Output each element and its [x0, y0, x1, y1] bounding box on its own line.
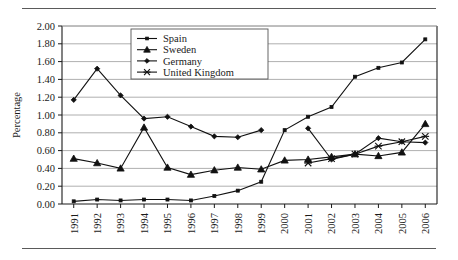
line-chart: 0.000.200.400.600.801.001.201.401.601.80…: [0, 0, 458, 260]
marker-square: [307, 115, 310, 118]
marker-square: [72, 200, 75, 203]
series-line: [308, 136, 425, 163]
marker-square: [260, 180, 263, 183]
marker-square: [119, 199, 122, 202]
figure: 0.000.200.400.600.801.001.201.401.601.80…: [0, 0, 458, 260]
marker-square: [236, 189, 239, 192]
marker-diamond: [423, 140, 428, 145]
y-tick-label: 0.60: [37, 145, 55, 156]
marker-square: [146, 37, 149, 40]
marker-star: [375, 143, 383, 149]
y-tick-label: 1.40: [37, 74, 55, 85]
x-tick-label: 1996: [186, 213, 197, 234]
marker-triangle: [140, 124, 147, 130]
y-tick-label: 1.60: [37, 56, 55, 67]
marker-square: [166, 198, 169, 201]
marker-square: [96, 198, 99, 201]
x-tick-label: 1991: [69, 213, 80, 234]
marker-square: [283, 129, 286, 132]
y-axis-title: Percentage: [11, 92, 22, 138]
legend-label: Spain: [163, 33, 188, 44]
y-axis-title-group: Percentage: [11, 92, 22, 138]
x-tick-label: 1993: [115, 213, 126, 234]
x-tick-label: 2005: [397, 213, 408, 234]
marker-diamond: [235, 135, 240, 140]
marker-square: [353, 75, 356, 78]
marker-square: [330, 105, 333, 108]
x-tick-label: 1992: [92, 213, 103, 234]
marker-star: [421, 133, 429, 139]
x-tick-label: 1997: [209, 213, 220, 234]
marker-square: [424, 38, 427, 41]
x-tick-label: 2001: [303, 213, 314, 234]
x-tick-labels-group: 1991199219931994199519961997199819992000…: [69, 204, 432, 234]
x-tick-label: 1998: [233, 213, 244, 234]
x-tick-label: 1995: [162, 213, 173, 234]
x-tick-label: 2004: [373, 212, 384, 234]
y-tick-label: 1.00: [37, 110, 55, 121]
y-tick-label: 0.00: [37, 199, 55, 210]
legend-label: Sweden: [163, 44, 197, 55]
marker-diamond: [188, 124, 193, 129]
x-tick-label: 2002: [326, 213, 337, 234]
x-tick-label: 2006: [420, 213, 431, 234]
y-tick-label: 1.20: [37, 92, 55, 103]
marker-diamond: [212, 134, 217, 139]
series-united-kingdom: [304, 133, 429, 166]
y-tick-labels-group: 0.000.200.400.600.801.001.201.401.601.80…: [37, 21, 55, 210]
y-tick-label: 0.40: [37, 163, 55, 174]
legend-label: United Kingdom: [163, 67, 234, 78]
chart-legend: SpainSwedenGermanyUnited Kingdom: [131, 29, 268, 79]
marker-triangle: [164, 164, 171, 170]
x-tick-label: 1994: [139, 212, 150, 234]
marker-triangle: [70, 155, 77, 161]
marker-square: [400, 61, 403, 64]
y-tick-label: 0.20: [37, 181, 55, 192]
y-tick-label: 1.80: [37, 38, 55, 49]
y-tick-label: 0.80: [37, 127, 55, 138]
marker-square: [377, 66, 380, 69]
x-tick-label: 1999: [256, 213, 267, 234]
marker-diamond: [259, 128, 264, 133]
y-tick-label: 2.00: [37, 21, 55, 32]
marker-square: [143, 198, 146, 201]
marker-triangle: [234, 164, 241, 170]
x-tick-label: 2000: [279, 213, 290, 234]
series-line: [74, 124, 426, 175]
legend-label: Germany: [163, 56, 203, 67]
marker-square: [189, 199, 192, 202]
marker-square: [213, 194, 216, 197]
x-tick-label: 2003: [350, 213, 361, 234]
marker-triangle: [422, 120, 429, 126]
